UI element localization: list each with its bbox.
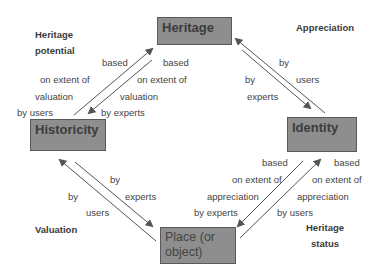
label-h2h-users-0: based (102, 57, 128, 68)
label-pl2his-users-1: users (86, 207, 109, 218)
label-h2h-experts-2: valuation (120, 91, 158, 102)
label-pl2id-users-2: appreciation (297, 191, 349, 202)
corner-line: status (306, 236, 344, 252)
label-id2pl-experts-2: appreciation (207, 191, 259, 202)
corner-valuation: Valuation (35, 222, 77, 238)
label-her2id-experts-0: by (245, 74, 255, 85)
label-id2pl-experts-3: by experts (194, 207, 238, 218)
label-h2h-users-3: by users (17, 107, 53, 118)
label-id2her-users-0: by (279, 57, 289, 68)
node-identity: Identity (287, 117, 357, 152)
corner-line: Heritage (35, 27, 75, 43)
corner-appreciation: Appreciation (296, 20, 354, 36)
node-place: Place (or object) (160, 227, 236, 264)
label-her2id-experts-1: experts (247, 91, 278, 102)
label-h2h-users-2: valuation (35, 91, 73, 102)
label-id2pl-experts-1: on extent of (232, 174, 282, 185)
label-his2pl-experts-0: by (110, 174, 120, 185)
corner-line: potential (35, 43, 75, 59)
corner-line: Appreciation (296, 20, 354, 36)
label-pl2id-users-3: by users (277, 207, 313, 218)
label-pl2id-users-0: based (334, 157, 360, 168)
corner-heritage-potential: Heritage potential (35, 27, 75, 59)
label-pl2id-users-1: on extent of (312, 174, 362, 185)
label-h2h-experts-3: by experts (101, 107, 145, 118)
label-h2h-experts-0: based (163, 57, 189, 68)
corner-line: Heritage (306, 220, 344, 236)
corner-heritage-status: Heritage status (306, 220, 344, 252)
label-id2her-users-1: users (296, 74, 319, 85)
label-h2h-experts-1: on extent of (137, 74, 187, 85)
node-heritage: Heritage (157, 17, 232, 45)
node-historicity: Historicity (30, 119, 106, 151)
label-pl2his-users-0: by (68, 191, 78, 202)
corner-line: Valuation (35, 222, 77, 238)
label-h2h-users-1: on extent of (40, 74, 90, 85)
label-his2pl-experts-1: experts (125, 191, 156, 202)
label-id2pl-experts-0: based (262, 157, 288, 168)
